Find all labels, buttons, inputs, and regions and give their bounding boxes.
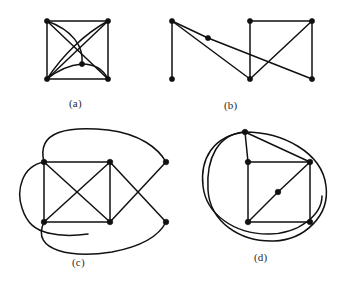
vertex-c-outer-top bbox=[163, 159, 169, 165]
edge-a-arc-tl-center bbox=[47, 21, 82, 64]
vertex-a-top-right bbox=[105, 18, 110, 23]
edge-b-tl-mid bbox=[172, 21, 208, 38]
graph-panel-d bbox=[203, 129, 327, 241]
vertex-a-bottom-right bbox=[105, 76, 110, 81]
edge-d-apex-left bbox=[245, 132, 248, 162]
vertex-c-top-left bbox=[41, 159, 47, 165]
vertex-b-bottom-centre bbox=[247, 76, 252, 81]
vertex-b-top-left bbox=[169, 18, 174, 23]
graph-panel-a bbox=[44, 18, 110, 81]
panel-label-d: (d) bbox=[254, 251, 267, 263]
vertex-a-bottom-left bbox=[44, 76, 49, 81]
edge-b-tr-bottommid bbox=[250, 21, 312, 79]
vertex-b-middle bbox=[205, 35, 210, 40]
panel-label-a: (a) bbox=[69, 97, 82, 109]
vertex-d-centre bbox=[275, 189, 281, 195]
vertex-d-top-left bbox=[245, 159, 251, 165]
edge-d-diag-lower bbox=[248, 192, 278, 222]
edge-d-inner-oval bbox=[203, 132, 322, 234]
edge-c-outer-bottom-curve bbox=[41, 222, 166, 254]
vertex-d-apex bbox=[242, 129, 248, 135]
graph-panel-b bbox=[169, 18, 314, 81]
panel-label-b: (b) bbox=[224, 99, 237, 111]
graph-panel-c bbox=[20, 129, 169, 254]
edge-a-arc-center-br bbox=[82, 64, 108, 79]
edge-c-outer-top-curve bbox=[43, 129, 166, 162]
vertex-d-bottom-left bbox=[245, 219, 251, 225]
vertex-b-bottom-right bbox=[309, 76, 314, 81]
graph-figures-svg bbox=[0, 0, 342, 284]
vertex-a-interior bbox=[79, 61, 84, 66]
edge-c-left-inner-loop bbox=[48, 233, 88, 235]
vertex-a-top-left bbox=[44, 18, 49, 23]
panel-label-c: (c) bbox=[72, 256, 85, 268]
vertex-d-top-right bbox=[307, 159, 313, 165]
edge-d-diag-upper bbox=[278, 162, 310, 192]
vertex-c-top-right bbox=[107, 159, 113, 165]
vertex-c-outer-bottom bbox=[163, 219, 169, 225]
vertex-c-bottom-right bbox=[107, 219, 113, 225]
vertex-c-bottom-left bbox=[41, 219, 47, 225]
vertex-b-top-right bbox=[309, 18, 314, 23]
vertex-b-top-centre bbox=[247, 18, 252, 23]
vertex-d-bottom-right bbox=[307, 219, 313, 225]
vertex-b-bottom-left bbox=[169, 76, 174, 81]
figure-board: (a) (b) (c) (d) bbox=[0, 0, 342, 284]
